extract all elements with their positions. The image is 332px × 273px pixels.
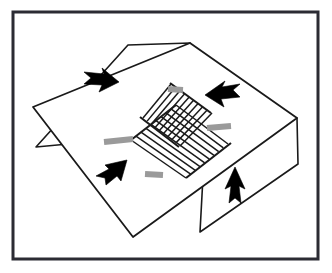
end-cap-top: [168, 89, 183, 90]
figure-page: Isometric diagram of a folded sheet with…: [0, 0, 332, 273]
figure-frame: [0, 0, 332, 273]
diagram-canvas: [0, 0, 332, 273]
end-cap-left: [104, 139, 133, 142]
end-cap-right: [207, 126, 231, 128]
end-cap-bottom: [145, 174, 163, 175]
